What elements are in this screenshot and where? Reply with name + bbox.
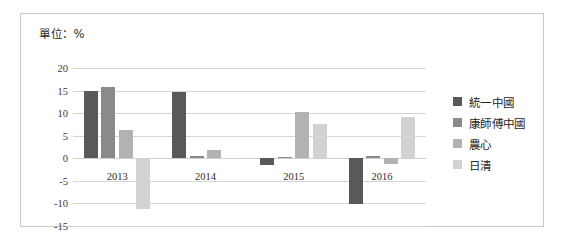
y-tick-label: -15 [54,221,68,232]
legend-item[interactable]: 康師傅中國 [453,112,565,133]
x-tick-label-2016: 2016 [371,171,392,182]
bar [401,117,415,158]
y-tick-label: -5 [59,175,68,186]
legend-item[interactable]: 日清 [453,154,565,175]
gridline--15 [73,226,426,227]
gridline--10 [73,203,426,204]
bar [172,92,186,158]
chart-frame: 單位：% 20151050-5-10-15 2013201420152016 統… [20,13,544,227]
bar [295,112,309,158]
legend-item[interactable]: 統一中國 [453,91,565,112]
y-tick-label: 0 [63,153,68,164]
bar [260,158,274,165]
y-tick-label: 20 [58,63,69,74]
bar [190,156,204,158]
bar [207,150,221,159]
legend-label: 日清 [469,157,492,173]
legend-swatch-icon [453,160,462,169]
y-tick-label: 10 [58,108,69,119]
gridline-0 [73,158,426,159]
legend-swatch-icon [453,139,462,148]
bar [384,158,398,164]
bar [366,156,380,158]
y-tick-label: 5 [63,130,68,141]
chart-legend: 統一中國康師傅中國農心日清 [453,91,565,175]
x-tick-label-2015: 2015 [283,171,304,182]
gridline-15 [73,91,426,92]
bar [119,130,133,158]
bar [349,158,363,204]
gridline-10 [73,113,426,114]
bar [278,157,292,158]
bar [101,87,115,158]
gridline-20 [73,68,426,69]
legend-item[interactable]: 農心 [453,133,565,154]
bar [225,158,239,159]
x-tick-label-2013: 2013 [107,171,128,182]
unit-label: 單位：% [39,25,85,41]
bar [136,158,150,209]
x-tick-label-2014: 2014 [195,171,216,182]
legend-label: 農心 [469,136,492,152]
legend-swatch-icon [453,118,462,127]
plot-area: 20151050-5-10-15 2013201420152016 [73,68,426,226]
legend-label: 統一中國 [469,94,514,110]
y-tick-label: -10 [54,198,68,209]
bar [313,124,327,158]
y-tick-label: 15 [58,85,69,96]
legend-label: 康師傅中國 [469,115,526,131]
legend-swatch-icon [453,97,462,106]
bar [84,91,98,159]
